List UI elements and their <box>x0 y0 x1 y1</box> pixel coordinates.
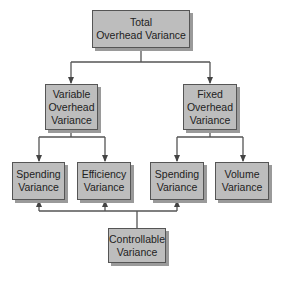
node-fixed-overhead-variance: Fixed Overhead Variance <box>183 84 237 130</box>
node-efficiency-variance: Efficiency Variance <box>77 162 131 200</box>
node-total-overhead-variance: Total Overhead Variance <box>92 10 190 48</box>
node-variable-spending-variance: Spending Variance <box>12 162 65 200</box>
node-controllable-variance: Controllable Variance <box>108 228 166 263</box>
node-fixed-spending-variance: Spending Variance <box>150 162 204 200</box>
node-volume-variance: Volume Variance <box>215 162 269 200</box>
node-variable-overhead-variance: Variable Overhead Variance <box>45 84 98 130</box>
